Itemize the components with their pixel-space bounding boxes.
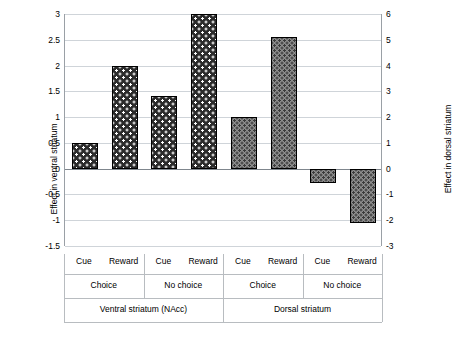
y-tick-right: 5 (386, 36, 391, 45)
bar (350, 169, 376, 223)
y-tick-left: 2 (55, 62, 60, 71)
y-tick-left: 1 (55, 113, 60, 122)
y-axis-label-right: Effect in dorsal striatum (444, 104, 454, 193)
y-tick-left: -1 (52, 216, 60, 225)
gridline (65, 40, 381, 41)
x-tick-label: Reward (332, 256, 392, 266)
label-separator (144, 254, 145, 298)
y-tick-left: 0 (55, 165, 60, 174)
y-tick-left: 2.5 (48, 36, 60, 45)
y-tick-left: 3 (55, 10, 60, 19)
bar (112, 66, 138, 169)
bar (271, 37, 297, 168)
subgroup-label: No choice (292, 280, 392, 290)
plot-area: 32.521.510.50-0.5-1-1.56543210-1-2-3 (64, 14, 382, 246)
group-label: Dorsal striatum (223, 304, 383, 314)
y-tick-right: 0 (386, 165, 391, 174)
label-separator (382, 254, 383, 298)
gridline (65, 194, 381, 195)
label-separator (64, 322, 382, 323)
y-tick-right: 3 (386, 87, 391, 96)
label-separator (64, 254, 65, 298)
label-separator (223, 254, 224, 298)
bar (231, 117, 257, 169)
y-tick-right: 1 (386, 139, 391, 148)
label-separator (64, 274, 382, 275)
y-tick-right: 6 (386, 10, 391, 19)
gridline (65, 14, 381, 15)
y-tick-left: -0.5 (45, 190, 60, 199)
y-tick-left: 1.5 (48, 87, 60, 96)
y-tick-left: 0.5 (48, 139, 60, 148)
y-tick-right: -1 (386, 190, 394, 199)
y-tick-right: 4 (386, 62, 391, 71)
y-tick-right: -2 (386, 216, 394, 225)
bar (72, 143, 98, 169)
bar (191, 14, 217, 169)
gridline (65, 246, 381, 247)
y-tick-right: -3 (386, 242, 394, 251)
y-tick-left: -1.5 (45, 242, 60, 251)
bar (151, 96, 177, 168)
y-tick-right: 2 (386, 113, 391, 122)
label-separator (64, 298, 382, 299)
label-separator (303, 254, 304, 298)
gridline (65, 220, 381, 221)
group-label: Ventral striatum (NAcc) (64, 304, 224, 314)
bar (310, 169, 336, 183)
